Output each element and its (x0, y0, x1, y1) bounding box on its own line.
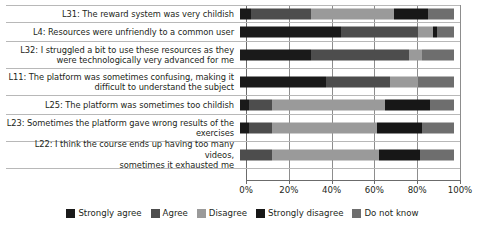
chart-row: L32: I struggled a bit to use these reso… (6, 42, 460, 69)
legend-item[interactable]: Do not know (352, 208, 418, 218)
bar-wrap (240, 69, 454, 95)
stacked-bar[interactable] (240, 150, 454, 161)
row-label: L32: I struggled a bit to use these reso… (6, 45, 240, 66)
bar-wrap (240, 42, 454, 68)
stacked-bar[interactable] (240, 27, 454, 38)
legend-label: Disagree (209, 208, 247, 218)
bar-segment-disagree[interactable] (418, 27, 433, 38)
bar-segment-do-not-know[interactable] (430, 100, 454, 111)
bar-segment-do-not-know[interactable] (422, 123, 454, 134)
legend-label: Do not know (364, 208, 418, 218)
row-label: L25: The platform was sometimes too chil… (6, 100, 240, 110)
legend-item[interactable]: Strongly disagree (256, 208, 344, 218)
legend-label: Agree (163, 208, 188, 218)
row-label: L11: The platform was sometimes confusin… (6, 72, 240, 93)
bar-segment-do-not-know[interactable] (428, 9, 454, 20)
row-label-line: L31: The reward system was very childish (6, 9, 234, 19)
bar-segment-agree[interactable] (311, 50, 409, 61)
row-label: L23: Sometimes the platform gave wrong r… (6, 118, 240, 139)
chart-row: L4: Resources were unfriendly to a commo… (6, 23, 460, 42)
legend-swatch-icon (197, 209, 206, 218)
chart-row: L11: The platform was sometimes confusin… (6, 69, 460, 96)
bar-segment-do-not-know[interactable] (437, 27, 454, 38)
bar-segment-agree[interactable] (341, 27, 418, 38)
x-tick-mark (332, 180, 333, 184)
bar-segment-disagree[interactable] (409, 50, 422, 61)
legend-item[interactable]: Disagree (197, 208, 247, 218)
chart-row: L22: I think the course ends up having t… (6, 142, 460, 169)
bar-segment-strongly-agree[interactable] (240, 27, 341, 38)
row-label-line: sometimes it exhausted me (6, 160, 234, 170)
bar-segment-strongly-agree[interactable] (240, 77, 326, 88)
x-tick-label: 80% (408, 185, 427, 196)
bar-segment-do-not-know[interactable] (422, 50, 454, 61)
row-label: L22: I think the course ends up having t… (6, 139, 240, 170)
stacked-bar[interactable] (240, 50, 454, 61)
bar-segment-strongly-disagree[interactable] (379, 150, 420, 161)
bar-segment-do-not-know[interactable] (420, 150, 454, 161)
bar-segment-strongly-agree[interactable] (240, 100, 249, 111)
row-label: L4: Resources were unfriendly to a commo… (6, 27, 240, 37)
legend-item[interactable]: Agree (151, 208, 188, 218)
x-tick-label: 100% (448, 185, 473, 196)
bar-segment-agree[interactable] (249, 123, 273, 134)
chart-row: L23: Sometimes the platform gave wrong r… (6, 115, 460, 142)
bar-segment-agree[interactable] (240, 150, 272, 161)
bar-segment-strongly-agree[interactable] (240, 123, 249, 134)
bar-wrap (240, 96, 454, 114)
legend-swatch-icon (66, 209, 75, 218)
x-axis-line (246, 180, 460, 181)
bar-segment-strongly-disagree[interactable] (394, 9, 428, 20)
x-tick-mark (374, 180, 375, 184)
bar-segment-disagree[interactable] (272, 150, 379, 161)
bar-wrap (240, 115, 454, 141)
bar-segment-do-not-know[interactable] (418, 77, 454, 88)
x-tick-mark (417, 180, 418, 184)
chart-legend: Strongly agreeAgreeDisagreeStrongly disa… (0, 208, 485, 218)
bar-wrap (240, 142, 454, 168)
x-tick-label: 0% (239, 185, 253, 196)
bar-segment-disagree[interactable] (311, 9, 394, 20)
chart-row: L31: The reward system was very childish (6, 5, 460, 23)
stacked-bar[interactable] (240, 77, 454, 88)
legend-swatch-icon (151, 209, 160, 218)
legend-item[interactable]: Strongly agree (66, 208, 141, 218)
bar-segment-strongly-agree[interactable] (240, 9, 251, 20)
bar-segment-agree[interactable] (249, 100, 273, 111)
bar-segment-strongly-disagree[interactable] (385, 100, 430, 111)
bar-wrap (240, 23, 454, 41)
legend-swatch-icon (352, 209, 361, 218)
gridline (460, 5, 461, 180)
row-label-line: difficult to understand the subject (6, 82, 234, 92)
bar-segment-disagree[interactable] (390, 77, 418, 88)
bar-segment-agree[interactable] (326, 77, 390, 88)
stacked-bar[interactable] (240, 100, 454, 111)
chart-row: L25: The platform was sometimes too chil… (6, 96, 460, 115)
bar-segment-disagree[interactable] (272, 100, 385, 111)
row-label: L31: The reward system was very childish (6, 9, 240, 19)
row-label-line: were technologically very advanced for m… (6, 55, 234, 65)
row-label-line: L4: Resources were unfriendly to a commo… (6, 27, 234, 37)
x-tick-label: 40% (322, 185, 341, 196)
x-tick-mark (460, 180, 461, 184)
bar-segment-disagree[interactable] (272, 123, 377, 134)
x-tick-mark (246, 180, 247, 184)
row-label-line: L11: The platform was sometimes confusin… (6, 72, 234, 82)
legend-swatch-icon (256, 209, 265, 218)
x-tick-mark (289, 180, 290, 184)
bar-segment-agree[interactable] (251, 9, 311, 20)
row-label-line: L23: Sometimes the platform gave wrong r… (6, 118, 234, 128)
bar-segment-strongly-agree[interactable] (240, 50, 311, 61)
row-label-line: L25: The platform was sometimes too chil… (6, 100, 234, 110)
bar-segment-strongly-disagree[interactable] (377, 123, 422, 134)
legend-label: Strongly disagree (268, 208, 344, 218)
stacked-bar[interactable] (240, 9, 454, 20)
chart-rows: L31: The reward system was very childish… (6, 5, 460, 180)
stacked-bar[interactable] (240, 123, 454, 134)
legend-label: Strongly agree (78, 208, 141, 218)
x-tick-label: 60% (365, 185, 384, 196)
x-tick-label: 20% (279, 185, 298, 196)
row-label-line: exercises (6, 128, 234, 138)
bar-wrap (240, 6, 454, 22)
row-label-line: L32: I struggled a bit to use these reso… (6, 45, 234, 55)
